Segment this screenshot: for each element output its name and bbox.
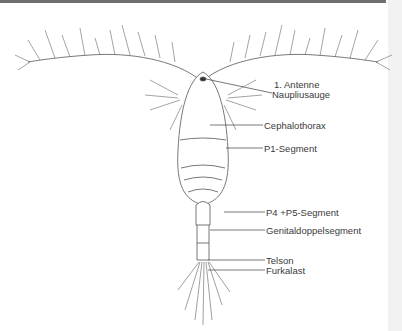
- label-p1-segment: P1-Segment: [264, 143, 317, 154]
- copepod-illustration: [0, 0, 402, 331]
- right-antenna: [204, 54, 378, 80]
- label-naupliusauge: Naupliusauge: [272, 89, 330, 100]
- label-p4-p5-segment: P4 +P5-Segment: [266, 207, 339, 218]
- label-cephalothorax: Cephalothorax: [264, 120, 326, 131]
- genital-segment: [196, 202, 210, 226]
- cephalothorax-outline: [178, 72, 229, 205]
- label-furkalast: Furkalast: [266, 265, 305, 276]
- label-genitaldoppelsegment: Genitaldoppelsegment: [266, 225, 361, 236]
- nauplius-eye: [200, 77, 206, 81]
